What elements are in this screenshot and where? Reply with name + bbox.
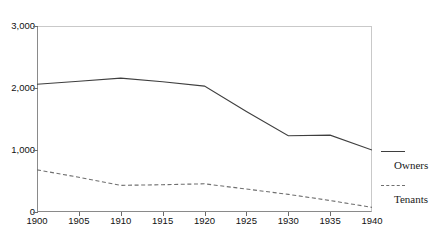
x-axis-tick-mark [288, 212, 289, 216]
legend-swatch-owners [381, 151, 405, 154]
x-axis-tick-label: 1935 [310, 216, 350, 226]
legend-label-tenants: Tenants [394, 193, 428, 205]
x-axis-tick-mark [121, 212, 122, 216]
x-axis-tick-label: 1910 [101, 216, 141, 226]
legend-label-owners: Owners [394, 159, 428, 171]
x-axis: 190019051910191519201925193019351940 [0, 0, 441, 239]
x-axis-tick-mark [79, 212, 80, 216]
x-axis-tick-label: 1915 [143, 216, 183, 226]
x-axis-tick-label: 1900 [17, 216, 57, 226]
x-axis-tick-mark [163, 212, 164, 216]
x-axis-tick-label: 1930 [268, 216, 308, 226]
x-axis-tick-label: 1920 [185, 216, 225, 226]
legend-swatch-tenants [381, 185, 405, 188]
legend-entry-tenants: Tenants [381, 180, 441, 214]
x-axis-tick-mark [330, 212, 331, 216]
x-axis-tick-label: 1925 [226, 216, 266, 226]
chart-figure: · ·· · ·· ·· 3,0002,0001,0000 1900190519… [0, 0, 441, 239]
x-axis-tick-label: 1905 [59, 216, 99, 226]
x-axis-tick-label: 1940 [352, 216, 392, 226]
x-axis-tick-mark [205, 212, 206, 216]
chart-legend: OwnersTenants [381, 146, 441, 214]
legend-entry-owners: Owners [381, 146, 441, 180]
x-axis-tick-mark [246, 212, 247, 216]
